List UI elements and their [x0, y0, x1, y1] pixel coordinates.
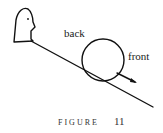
figure-diagram: back front FIGURE 11: [0, 0, 163, 133]
label-back: back: [64, 27, 85, 39]
caption-number: 11: [114, 115, 125, 127]
label-front: front: [128, 50, 149, 62]
rolling-ball: [82, 39, 124, 81]
caption-word: FIGURE: [58, 118, 99, 127]
direction-arrow: [117, 73, 137, 83]
arrow-head-icon: [130, 78, 137, 83]
head-eye: [27, 18, 29, 20]
head-figure: [14, 8, 35, 42]
